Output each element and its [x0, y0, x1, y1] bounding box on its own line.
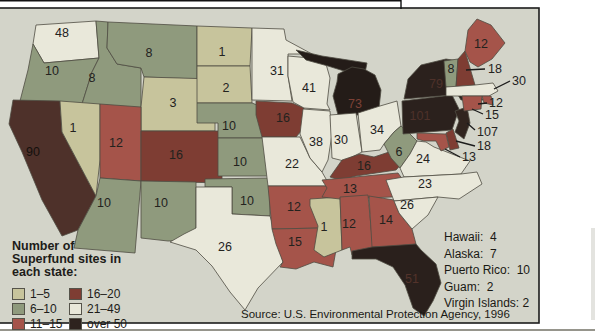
state-value-VA: 24 — [416, 152, 430, 166]
state-value-IN: 30 — [334, 133, 348, 147]
state-value-ID: 8 — [89, 71, 96, 85]
callout-value-MD: 13 — [462, 150, 476, 164]
callout-value-DE: 18 — [477, 139, 491, 153]
legend-label: 16–20 — [87, 287, 120, 301]
state-value-ND: 1 — [219, 45, 226, 59]
legend-label: 21–49 — [87, 302, 120, 316]
state-value-SC: 26 — [400, 198, 414, 212]
callout-value-NH: 18 — [488, 62, 502, 76]
state-value-CA: 90 — [26, 145, 40, 159]
source-credit: Source: U.S. Environmental Protection Ag… — [241, 308, 510, 320]
territory-line: Hawaii: 4 — [444, 229, 530, 246]
territory-line: Guam: 2 — [444, 279, 530, 296]
legend-item-21–49: 21–49 — [69, 301, 139, 316]
legend-swatch-cat1 — [12, 288, 25, 300]
legend-swatch-cat4 — [69, 288, 82, 300]
legend-swatch-cat6 — [69, 318, 82, 330]
legend-label: over 50 — [87, 317, 127, 331]
state-value-AL: 12 — [342, 217, 356, 231]
state-value-LA: 15 — [288, 235, 302, 249]
state-value-WA: 48 — [55, 26, 69, 40]
state-value-AZ: 10 — [97, 196, 111, 210]
state-value-NC: 23 — [418, 177, 432, 191]
legend-item-11–15: 11–15 — [12, 316, 69, 331]
superfund-map-figure: 4810883901121610101210101026311622121541… — [0, 0, 595, 334]
callout-value-CT: 15 — [485, 108, 499, 122]
state-value-MS: 1 — [321, 220, 328, 234]
legend-items: 1–56–1011–1516–2021–49over 50 — [12, 286, 162, 331]
state-value-KY: 16 — [357, 159, 371, 173]
legend-swatch-cat5 — [69, 303, 82, 315]
callout-value-MA: 30 — [512, 74, 526, 88]
state-value-KS: 10 — [233, 155, 247, 169]
state-value-UT: 12 — [109, 136, 123, 150]
state-value-OH: 34 — [370, 123, 384, 137]
state-value-CO: 16 — [169, 148, 183, 162]
state-value-TN: 13 — [343, 182, 357, 196]
territory-line: Puerto Rico: 10 — [444, 262, 530, 279]
state-value-WI: 41 — [302, 81, 316, 95]
legend-item-16–20: 16–20 — [69, 286, 139, 301]
state-value-MO: 22 — [285, 157, 299, 171]
territories-list: Hawaii: 4Alaska: 7Puerto Rico: 10Guam: 2… — [444, 229, 530, 312]
state-value-NV: 1 — [70, 121, 77, 135]
callout-value-NJ: 107 — [477, 125, 498, 139]
state-value-MN: 31 — [270, 64, 284, 78]
state-value-WY: 3 — [170, 96, 177, 110]
legend-label: 6–10 — [30, 302, 57, 316]
map-legend: Number of Superfund sites in each state:… — [12, 240, 162, 331]
state-value-NE: 10 — [222, 119, 236, 133]
legend-label: 1–5 — [30, 287, 50, 301]
state-value-NM: 10 — [154, 196, 168, 210]
legend-title: Number of Superfund sites in each state: — [12, 240, 130, 279]
state-value-MT: 8 — [146, 46, 153, 60]
state-value-AR: 12 — [287, 200, 301, 214]
state-value-IL: 38 — [309, 135, 323, 149]
legend-item-1–5: 1–5 — [12, 286, 69, 301]
legend-swatch-cat2 — [12, 303, 25, 315]
state-value-IA: 16 — [276, 111, 290, 125]
state-value-GA: 14 — [379, 213, 393, 227]
state-value-WV: 6 — [396, 145, 403, 159]
legend-item-6–10: 6–10 — [12, 301, 69, 316]
state-value-FL: 51 — [405, 272, 419, 286]
state-value-NY: 79 — [429, 77, 443, 91]
state-value-MI: 73 — [348, 97, 362, 111]
state-value-SD: 2 — [223, 81, 230, 95]
state-value-OR: 10 — [45, 64, 59, 78]
state-value-ME: 12 — [474, 37, 488, 51]
legend-item-over-50: over 50 — [69, 316, 139, 331]
state-value-VT: 8 — [448, 62, 455, 76]
state-value-TX: 26 — [218, 240, 232, 254]
state-value-PA: 101 — [410, 109, 431, 123]
state-value-OK: 10 — [240, 194, 254, 208]
legend-swatch-cat3 — [12, 318, 25, 330]
page-edge-strip — [591, 228, 595, 320]
legend-label: 11–15 — [30, 317, 62, 331]
territory-line: Alaska: 7 — [444, 246, 530, 263]
